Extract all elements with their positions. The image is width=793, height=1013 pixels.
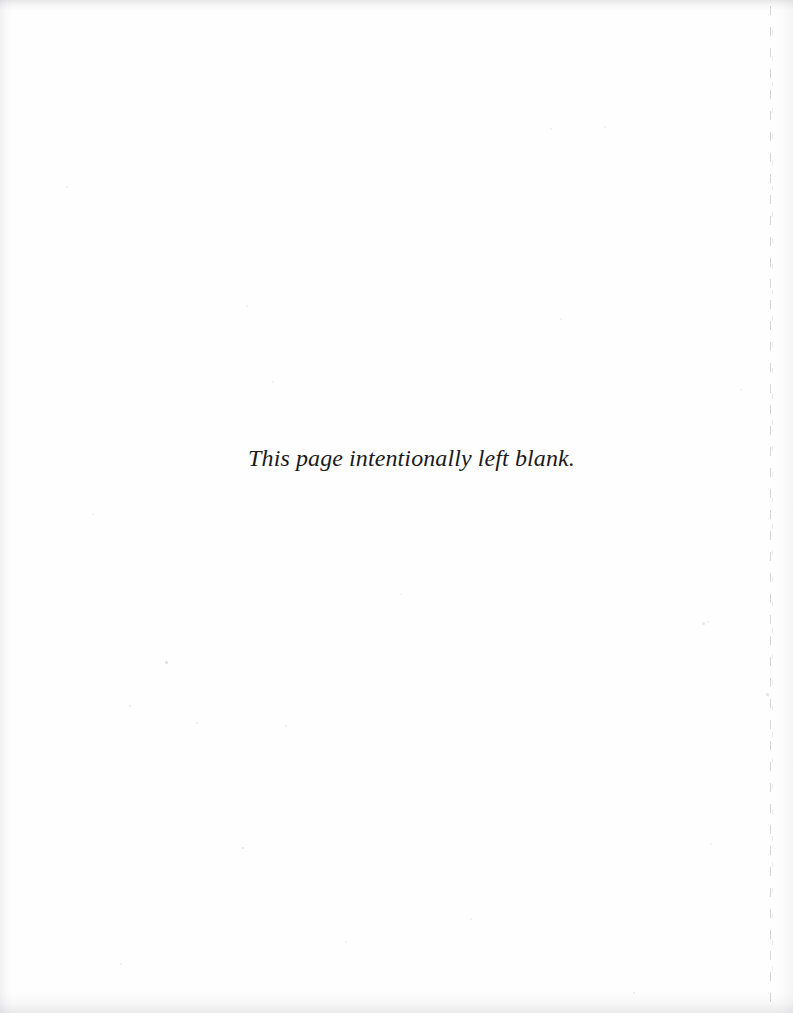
paper-speck (246, 305, 248, 307)
right-edge-scan-shadow (773, 0, 793, 1013)
paper-speck (702, 622, 705, 625)
paper-speck (604, 126, 606, 128)
paper-speck (560, 318, 562, 320)
paper-speck (550, 128, 552, 130)
paper-speck (766, 693, 769, 696)
top-edge-scan-shadow (0, 0, 793, 14)
scanned-page: This page intentionally left blank. (0, 0, 793, 1013)
paper-speck (92, 513, 94, 515)
paper-speck (196, 722, 198, 724)
paper-speck (740, 389, 742, 391)
dashed-page-edge-line (770, 6, 771, 1006)
paper-speck (710, 843, 712, 845)
paper-speck (345, 941, 347, 943)
bottom-edge-scan-shadow (0, 987, 793, 1013)
paper-speck (400, 593, 402, 595)
page-intentionally-blank-notice: This page intentionally left blank. (0, 444, 793, 472)
paper-speck (707, 621, 709, 623)
paper-speck (120, 963, 122, 965)
paper-speck (129, 705, 131, 707)
paper-speck (633, 992, 635, 994)
paper-speck (242, 847, 244, 849)
left-edge-scan-shadow (0, 0, 16, 1013)
paper-speck (165, 661, 168, 664)
paper-speck (272, 381, 274, 383)
dashed-page-edge-line-secondary (772, 30, 773, 990)
paper-speck (285, 725, 287, 727)
paper-speck (470, 918, 472, 920)
paper-speck (66, 186, 68, 188)
